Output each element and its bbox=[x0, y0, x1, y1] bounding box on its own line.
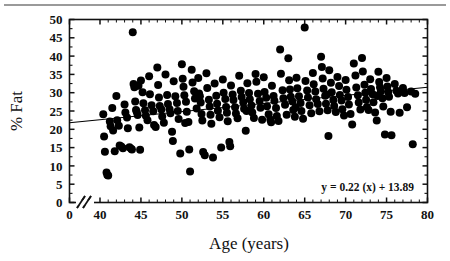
scatter-point bbox=[134, 111, 142, 119]
scatter-point bbox=[317, 53, 325, 61]
scatter-point bbox=[262, 94, 270, 102]
scatter-point bbox=[101, 148, 109, 156]
scatter-point bbox=[284, 54, 292, 62]
scatter-point bbox=[136, 146, 144, 154]
scatter-point bbox=[311, 88, 319, 96]
scatter-point bbox=[267, 118, 275, 126]
scatter-point bbox=[342, 86, 350, 94]
scatter-point bbox=[252, 78, 260, 86]
scatter-point bbox=[234, 114, 242, 122]
scatter-point bbox=[396, 109, 404, 117]
scatter-point bbox=[268, 82, 276, 90]
scatter-point bbox=[301, 24, 309, 32]
scatter-point bbox=[121, 100, 129, 108]
x-tick-label: 75 bbox=[380, 207, 394, 222]
scatter-point bbox=[207, 120, 215, 128]
scatter-point bbox=[154, 81, 162, 89]
scatter-point bbox=[182, 98, 190, 106]
scatter-point bbox=[194, 74, 202, 82]
scatter-point bbox=[169, 137, 177, 145]
scatter-point bbox=[186, 167, 194, 175]
scatter-point bbox=[355, 99, 363, 107]
scatter-point bbox=[185, 145, 193, 153]
y-tick-label: 45 bbox=[50, 30, 64, 45]
scatter-point bbox=[203, 84, 211, 92]
scatter-point bbox=[115, 122, 123, 130]
scatter-point bbox=[274, 117, 282, 125]
scatter-point bbox=[291, 113, 299, 121]
y-axis-tick-labels: 05101520253035404550 bbox=[50, 12, 64, 210]
scatter-point bbox=[309, 69, 317, 77]
scatter-point bbox=[366, 75, 374, 83]
scatter-point bbox=[299, 115, 307, 123]
scatter-point bbox=[362, 96, 370, 104]
scatter-point bbox=[411, 90, 419, 98]
scatter-point bbox=[145, 72, 153, 80]
scatter-point bbox=[129, 28, 137, 36]
scatter-point bbox=[209, 153, 217, 161]
scatter-point bbox=[293, 84, 301, 92]
scatter-point bbox=[303, 87, 311, 95]
scatter-chart: 05101520253035404550 0404550556065707580… bbox=[0, 0, 450, 261]
scatter-point bbox=[315, 107, 323, 115]
y-tick-label: 40 bbox=[50, 49, 63, 64]
scatter-point bbox=[325, 66, 333, 74]
scatter-point bbox=[213, 100, 221, 108]
scatter-point bbox=[229, 96, 237, 104]
scatter-point bbox=[310, 80, 318, 88]
scatter-point bbox=[134, 82, 142, 90]
x-tick-label: 45 bbox=[134, 207, 148, 222]
x-tick-label: 60 bbox=[257, 207, 270, 222]
x-axis-tick-labels: 0404550556065707580 bbox=[66, 207, 434, 222]
scatter-point bbox=[170, 77, 178, 85]
y-axis-ticks-left bbox=[70, 20, 75, 203]
scatter-point bbox=[174, 107, 182, 115]
scatter-point bbox=[235, 72, 243, 80]
scatter-point bbox=[153, 63, 161, 71]
scatter-point bbox=[403, 103, 411, 111]
scatter-point bbox=[293, 74, 301, 82]
scatter-point bbox=[307, 109, 315, 117]
x-tick-label: 50 bbox=[175, 207, 188, 222]
scatter-point bbox=[212, 92, 220, 100]
y-axis-ticks-right bbox=[423, 20, 428, 203]
scatter-point bbox=[342, 76, 350, 84]
scatter-point bbox=[188, 66, 196, 74]
scatter-point bbox=[250, 114, 258, 122]
scatter-point bbox=[128, 145, 136, 153]
scatter-point bbox=[350, 59, 358, 67]
scatter-point bbox=[181, 119, 189, 127]
x-tick-label: 65 bbox=[298, 207, 312, 222]
y-axis-title: % Fat bbox=[7, 91, 26, 131]
scatter-point bbox=[279, 86, 287, 94]
scatter-points bbox=[99, 24, 419, 180]
scatter-point bbox=[277, 70, 285, 78]
scatter-point bbox=[139, 99, 147, 107]
scatter-point bbox=[351, 72, 359, 80]
scatter-point bbox=[163, 91, 171, 99]
regression-equation-label: y = 0.22 (x) + 13.89 bbox=[321, 181, 414, 194]
scatter-point bbox=[333, 73, 341, 81]
scatter-point bbox=[227, 81, 235, 89]
scatter-point bbox=[202, 69, 210, 77]
scatter-point bbox=[112, 92, 120, 100]
scatter-point bbox=[324, 106, 332, 114]
y-tick-label: 15 bbox=[50, 140, 64, 155]
x-axis-title: Age (years) bbox=[209, 234, 289, 253]
scatter-point bbox=[292, 103, 300, 111]
scatter-point bbox=[205, 96, 213, 104]
scatter-point bbox=[146, 90, 154, 98]
scatter-point bbox=[135, 123, 143, 131]
scatter-point bbox=[345, 100, 353, 108]
scatter-point bbox=[373, 117, 381, 125]
y-tick-label: 35 bbox=[50, 67, 64, 82]
scatter-point bbox=[211, 80, 219, 88]
scatter-point bbox=[217, 144, 225, 152]
x-axis-break-mark bbox=[76, 196, 94, 208]
y-tick-label: 0 bbox=[56, 195, 63, 210]
scatter-point bbox=[387, 131, 395, 139]
x-tick-label: 55 bbox=[216, 207, 230, 222]
x-tick-label: 80 bbox=[421, 207, 434, 222]
scatter-point bbox=[270, 97, 278, 105]
scatter-point bbox=[226, 142, 234, 150]
